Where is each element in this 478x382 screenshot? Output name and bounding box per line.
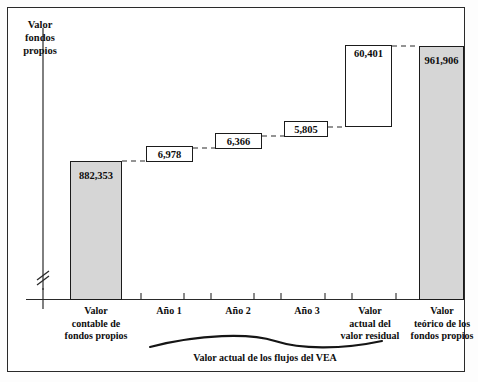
category-line-0-0: Valor [56, 305, 136, 318]
bar-valor-contable: 882,353 [70, 161, 122, 300]
category-line-5-1: teórico de los [402, 318, 478, 331]
y-axis-title-line-1: Valor [14, 18, 66, 31]
category-label-ano-1: Año 1 [138, 305, 200, 318]
bar-valor-residual: 60,401 [345, 45, 392, 127]
category-line-2-0: Año 2 [207, 305, 269, 318]
category-label-ano-2: Año 2 [207, 305, 269, 318]
bar-ano-1: 6,978 [146, 146, 193, 162]
category-line-1-0: Año 1 [138, 305, 200, 318]
category-label-ano-3: Año 3 [276, 305, 338, 318]
category-line-4-1: actual del [330, 318, 410, 331]
y-axis-title-line-2: fondos [14, 31, 66, 44]
category-line-0-2: fondos propios [56, 330, 136, 343]
category-label-valor-teorico: Valor teórico de los fondos propios [402, 305, 478, 343]
figure-canvas: Valor fondos propios 882,353 6,978 6,366… [0, 0, 478, 382]
category-line-3-0: Año 3 [276, 305, 338, 318]
bar-value-label-1: 6,978 [147, 149, 192, 160]
category-label-valor-contable: Valor contable de fondos propios [56, 305, 136, 343]
bar-value-label-5: 961,906 [420, 55, 463, 66]
bar-ano-2: 6,366 [215, 133, 262, 149]
category-label-valor-residual: Valor actual del valor residual [330, 305, 410, 343]
bar-ano-3: 5,805 [284, 121, 328, 137]
y-axis-title-line-3: propios [14, 44, 66, 57]
bar-valor-teorico: 961,906 [419, 46, 464, 300]
category-line-4-0: Valor [330, 305, 410, 318]
bar-value-label-3: 5,805 [285, 124, 327, 135]
bar-value-label-2: 6,366 [216, 136, 261, 147]
flows-bracket-label: Valor actual de los flujos del VEA [140, 352, 390, 363]
y-axis-title: Valor fondos propios [14, 18, 66, 57]
category-line-5-2: fondos propios [402, 330, 478, 343]
category-line-4-2: valor residual [330, 330, 410, 343]
category-line-0-1: contable de [56, 318, 136, 331]
bar-value-label-4: 60,401 [346, 48, 391, 59]
category-line-5-0: Valor [402, 305, 478, 318]
bar-value-label-0: 882,353 [71, 170, 121, 181]
